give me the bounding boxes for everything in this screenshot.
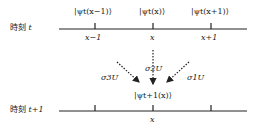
time-t-label: 時刻 t — [10, 24, 32, 32]
arrow-left — [117, 62, 139, 82]
arrow-right — [167, 62, 189, 82]
state-x: |ψt(x)⟩ — [139, 8, 165, 16]
operator-right: σ1U — [187, 74, 204, 82]
operator-middle: σ2U — [145, 65, 162, 73]
tick-label-x-1: x−1 — [85, 34, 101, 42]
tick-label-x+1: x+1 — [201, 34, 217, 42]
tick-label-bottom-x: x — [150, 116, 155, 124]
state-x+1: |ψt(x+1)⟩ — [191, 8, 229, 16]
state-x-1: |ψt(x−1)⟩ — [74, 8, 112, 16]
time-t1-label: 時刻 t+1 — [10, 106, 44, 114]
operator-left: σ3U — [101, 74, 118, 82]
quantum-walk-diagram: |ψt(x−1)⟩ |ψt(x)⟩ |ψt(x+1)⟩ 時刻 t x−1 x x… — [0, 0, 262, 133]
state-next: |ψt+1(x)⟩ — [134, 92, 172, 100]
tick-label-x: x — [150, 34, 155, 42]
